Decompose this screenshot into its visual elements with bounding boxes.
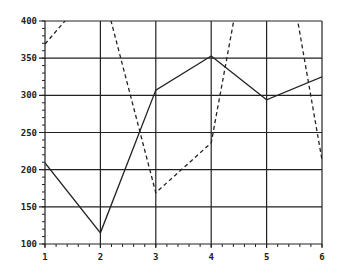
y-tick-label: 400 [21, 16, 37, 26]
data-series [45, 0, 322, 233]
y-tick-label: 200 [21, 165, 37, 175]
x-tick-label: 6 [319, 252, 324, 262]
x-tick-label: 1 [42, 252, 47, 262]
x-tick-label: 5 [264, 252, 269, 262]
y-tick-label: 350 [21, 53, 37, 63]
y-tick-label: 100 [21, 239, 37, 249]
x-tick-label: 3 [153, 252, 158, 262]
x-axis-tick-labels: 123456 [42, 252, 324, 262]
line-chart: 100150200250300350400 123456 [0, 0, 340, 277]
grid-lines [39, 21, 322, 248]
x-tick-label: 4 [208, 252, 214, 262]
y-axis-tick-labels: 100150200250300350400 [21, 16, 37, 249]
x-tick-label: 2 [98, 252, 103, 262]
y-tick-label: 150 [21, 202, 37, 212]
y-tick-label: 250 [21, 128, 37, 138]
y-tick-label: 300 [21, 90, 37, 100]
series-line-dashed [45, 0, 322, 193]
